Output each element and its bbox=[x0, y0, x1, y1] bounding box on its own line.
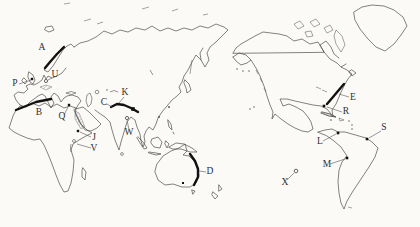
hainan bbox=[158, 116, 160, 118]
leader-line-K bbox=[119, 97, 124, 103]
range-stroke-A bbox=[45, 47, 64, 68]
map-label-L: L bbox=[317, 136, 323, 146]
alps-hatch bbox=[40, 85, 52, 90]
balkhash-dot bbox=[106, 89, 107, 90]
greenland bbox=[354, 5, 407, 51]
iceland bbox=[45, 26, 54, 32]
leader-line-R bbox=[327, 107, 342, 112]
tierra-del-fuego bbox=[348, 207, 352, 208]
marker-square-Q bbox=[68, 104, 70, 106]
tasmania bbox=[192, 190, 195, 194]
japan bbox=[184, 80, 191, 93]
aleutian-dot-3 bbox=[248, 70, 249, 71]
caspian-sea bbox=[86, 93, 92, 107]
marker-square-M bbox=[346, 157, 349, 160]
hispaniola bbox=[339, 118, 344, 121]
map-label-K: K bbox=[122, 87, 129, 97]
lake-tanganyika bbox=[71, 144, 72, 152]
map-label-D: D bbox=[207, 166, 214, 176]
marker-square-C bbox=[131, 107, 135, 111]
marker-circle-X bbox=[294, 169, 298, 173]
map-label-M: M bbox=[323, 159, 332, 169]
marker-square-D bbox=[182, 182, 184, 184]
map-label-V: V bbox=[91, 143, 98, 153]
taiwan bbox=[168, 106, 170, 108]
aral-sea bbox=[95, 90, 99, 94]
map-label-S: S bbox=[381, 122, 386, 132]
cuba-hatch bbox=[321, 112, 336, 117]
sakhalin bbox=[190, 60, 192, 74]
marker-square-R bbox=[323, 105, 326, 108]
south-america bbox=[318, 129, 378, 209]
aleutian-dot-1 bbox=[236, 68, 237, 69]
map-label-B: B bbox=[36, 107, 42, 117]
antilles-dot-2 bbox=[351, 124, 352, 125]
madagascar bbox=[82, 168, 86, 180]
map-label-R: R bbox=[343, 106, 350, 116]
hawaii-dot-1 bbox=[249, 108, 250, 109]
java bbox=[149, 152, 161, 155]
arctic-archipelago bbox=[294, 19, 345, 52]
red-sea-hatch bbox=[75, 111, 85, 129]
leader-line-D bbox=[199, 171, 206, 172]
marker-square-L bbox=[337, 132, 340, 135]
new-zealand-south bbox=[212, 192, 218, 199]
borneo bbox=[151, 137, 162, 148]
eurasia-north-east-coast bbox=[74, 24, 228, 150]
marker-square-S bbox=[366, 138, 369, 141]
map-label-P: P bbox=[12, 78, 17, 88]
marker-square-P bbox=[31, 78, 33, 80]
jamaica bbox=[330, 119, 332, 121]
map-label-Q: Q bbox=[59, 111, 66, 121]
lake-baikal bbox=[150, 70, 153, 75]
range-stroke-B bbox=[16, 99, 51, 110]
new-guinea bbox=[169, 143, 197, 152]
arctic-island-dashes bbox=[64, 3, 208, 24]
newfoundland bbox=[349, 70, 356, 76]
map-label-U: U bbox=[52, 69, 59, 79]
black-sea bbox=[66, 92, 76, 95]
ireland bbox=[22, 78, 27, 84]
leader-line-S bbox=[369, 131, 381, 138]
marker-circle-W bbox=[125, 116, 128, 119]
antilles-dot-1 bbox=[348, 120, 349, 121]
marker-square-J bbox=[77, 130, 79, 132]
great-lakes bbox=[316, 87, 327, 92]
hawaii-dot-2 bbox=[253, 106, 254, 107]
west-coast-mountain-ticks bbox=[256, 70, 266, 92]
map-sheet: APUBQCKWJVDXERLMS bbox=[0, 0, 420, 227]
map-label-E: E bbox=[350, 92, 356, 102]
map-label-J: J bbox=[92, 132, 96, 142]
marker-circle-U bbox=[44, 79, 47, 82]
map-label-A: A bbox=[39, 42, 46, 52]
new-zealand-north bbox=[219, 185, 222, 191]
philippines bbox=[168, 120, 174, 134]
scandinavia bbox=[44, 44, 74, 72]
leader-line-E bbox=[339, 94, 349, 97]
lake-balkhash bbox=[110, 91, 118, 93]
map-label-X: X bbox=[282, 177, 289, 187]
range-stroke-E bbox=[327, 84, 344, 104]
australia bbox=[155, 144, 199, 187]
world-map: APUBQCKWJVDXERLMS bbox=[0, 0, 420, 227]
sri-lanka bbox=[121, 153, 124, 156]
leader-line-V bbox=[77, 144, 91, 148]
map-label-W: W bbox=[125, 127, 134, 137]
map-label-C: C bbox=[101, 97, 107, 107]
leader-line-C bbox=[107, 104, 112, 107]
lake-victoria bbox=[73, 140, 76, 143]
sulawesi bbox=[165, 141, 169, 148]
aleutian-dot-2 bbox=[242, 70, 243, 71]
antilles-dot-3 bbox=[351, 128, 352, 129]
